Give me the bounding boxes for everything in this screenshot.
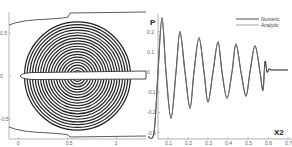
right-x-tick-label: 0.3	[205, 140, 212, 146]
right-x-tick-label: 0.4	[225, 140, 232, 146]
series-line-analytic	[148, 19, 288, 139]
line-chart: 0.10.20.30.40.50.60.70.20.10-0.1-0.2-0.3…	[147, 14, 292, 146]
x-axis-label: X2	[274, 128, 284, 137]
airfoil-body	[20, 71, 146, 80]
lower-boundary	[9, 127, 146, 137]
right-y-tick-label: -0.2	[147, 109, 156, 115]
figure: 00.510.50-0.5 0.10.20.30.40.50.60.70.20.…	[0, 0, 292, 147]
legend: Numeric Analytic	[236, 16, 280, 28]
left-y-tick-label: -0.5	[0, 116, 9, 122]
right-x-tick-label: 0.7	[285, 140, 292, 146]
left-y-tick-label: 0	[0, 73, 3, 79]
y-axis-label: P	[150, 18, 156, 27]
right-x-tick-label: 0.1	[165, 140, 172, 146]
right-y-tick-label: -0.1	[147, 89, 156, 95]
right-x-tick-label: 0.5	[245, 140, 252, 146]
series-line-numeric	[148, 18, 288, 139]
left-x-tick-label: 1	[115, 140, 118, 146]
right-y-tick-label: 0	[147, 69, 150, 75]
right-x-tick-label: 0.6	[265, 140, 272, 146]
left-x-tick-label: 0	[17, 140, 20, 146]
left-y-tick-label: 0.5	[0, 30, 7, 36]
right-y-tick-label: 0.2	[147, 29, 154, 35]
contour-plot: 00.510.50-0.5	[0, 12, 146, 146]
upper-boundary	[9, 12, 146, 25]
right-y-tick-label: 0.1	[147, 49, 154, 55]
left-x-tick-label: 0.5	[66, 140, 73, 146]
legend-label-analytic: Analytic	[261, 22, 279, 28]
right-x-tick-label: 0.2	[185, 140, 192, 146]
